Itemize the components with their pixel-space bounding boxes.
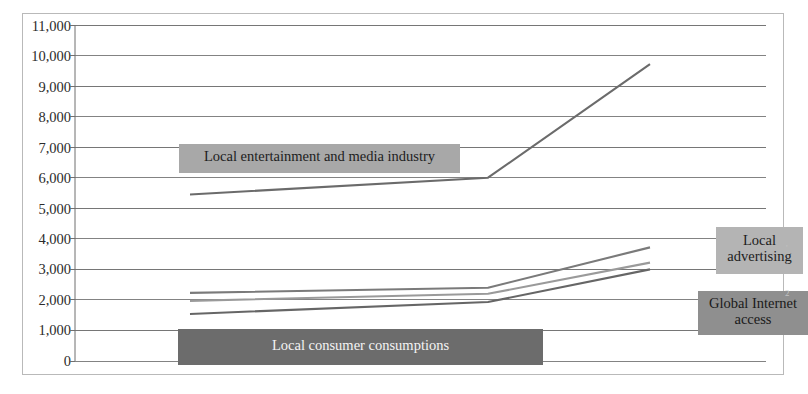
callout-local-entertainment: Local entertainment and media industry — [179, 144, 460, 173]
plot-area — [23, 14, 785, 376]
page-speck-lower: 2 — [785, 288, 790, 298]
series-line — [190, 247, 650, 293]
callout-local-advertising: Local advertising — [716, 227, 803, 274]
callout-local-consumer-consumptions: Local consumer consumptions — [178, 329, 543, 365]
gridlines — [75, 25, 766, 361]
callout-global-line2: access — [734, 311, 771, 327]
chart-frame: 11,000 10,000 9,000 8,000 7,000 6,000 5,… — [22, 13, 784, 375]
y-axis-ticks — [70, 25, 75, 361]
callout-advertising-line1: Local — [743, 232, 776, 248]
callout-global-line1: Global Internet — [709, 295, 797, 311]
callout-global-internet-access: Global Internet access — [698, 291, 808, 335]
series-lines — [190, 64, 650, 314]
series-line — [190, 64, 650, 194]
series-line — [190, 263, 650, 301]
page-speck-upper: ' — [786, 243, 788, 253]
callout-advertising-line2: advertising — [727, 248, 791, 264]
